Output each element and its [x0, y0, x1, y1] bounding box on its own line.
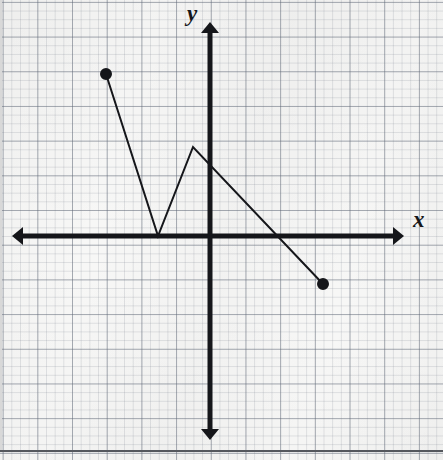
y-axis-label: y: [187, 2, 197, 25]
piecewise-linear-curve: [106, 74, 323, 284]
graph-figure: y x: [0, 0, 443, 460]
x-axis-label: x: [413, 208, 425, 231]
figure-left-border: [0, 0, 2, 452]
left-endpoint-dot: [101, 69, 111, 79]
right-endpoint-dot: [318, 279, 328, 289]
axes-group: [12, 22, 404, 440]
function-curve-group: [106, 74, 323, 284]
plot-canvas: [0, 0, 443, 460]
y-axis-up-arrowhead: [201, 22, 219, 33]
y-axis-down-arrowhead: [201, 429, 219, 440]
x-axis-left-arrowhead: [12, 227, 23, 245]
x-axis-right-arrowhead: [393, 227, 404, 245]
figure-bottom-border: [0, 450, 443, 452]
endpoint-dots-group: [101, 69, 328, 289]
